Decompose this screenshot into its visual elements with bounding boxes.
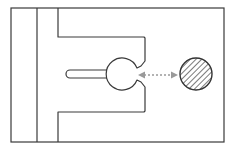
diagram-canvas: [0, 0, 232, 150]
dotted-double-arrow: [138, 72, 178, 79]
keyhole-slot: [58, 8, 145, 142]
hatched-circle: [178, 56, 214, 92]
keyhole-stem: [66, 70, 107, 78]
